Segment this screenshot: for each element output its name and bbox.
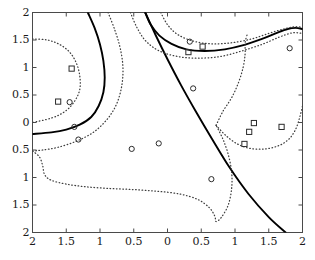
x-tick-label: 0: [164, 235, 171, 248]
y-tick-label: 0.5: [12, 88, 30, 101]
x-tick-label: 1: [232, 235, 239, 248]
curve-solid-boundary-right: [145, 13, 302, 52]
curve-dotted-lower-left-loop: [33, 125, 233, 221]
markers-group: [56, 39, 293, 182]
curves-group: [33, 13, 303, 233]
chart-figure: 21.510.500.511.5221.510.500.511.52: [0, 0, 315, 260]
y-tick-label: 2: [23, 226, 30, 239]
x-tick-label: 1: [97, 235, 104, 248]
curve-dotted-inner-left: [33, 39, 81, 123]
y-tick-label: 1.5: [12, 33, 30, 46]
y-tick-label: 1: [23, 61, 30, 74]
data-point-square: [200, 44, 205, 49]
curve-solid-boundary-left: [33, 13, 105, 135]
x-tick-label: 1.5: [260, 235, 278, 248]
x-tick-label: 2: [29, 235, 36, 248]
curve-dotted-right-cluster-loop: [216, 106, 302, 149]
data-point-circle: [209, 177, 214, 182]
data-point-circle: [67, 100, 72, 105]
scatter-contour-plot: 21.510.500.511.5221.510.500.511.52: [0, 0, 315, 260]
y-tick-label: 1.5: [12, 198, 30, 211]
x-tick-label: 0.5: [193, 235, 211, 248]
x-tick-label: 0.5: [125, 235, 143, 248]
data-point-square: [69, 66, 74, 71]
data-point-circle: [129, 146, 134, 151]
y-tick-label: 0: [23, 116, 30, 129]
data-point-square: [242, 141, 247, 146]
data-point-circle: [191, 86, 196, 91]
curve-dotted-outer-left: [33, 13, 124, 152]
data-point-circle: [156, 141, 161, 146]
y-tick-label: 2: [23, 6, 30, 19]
data-point-square: [279, 124, 284, 129]
x-tick-label: 1.5: [58, 235, 76, 248]
curve-dotted-inner-right: [161, 13, 303, 44]
y-tick-label: 0.5: [12, 143, 30, 156]
y-tick-label: 1: [23, 171, 30, 184]
x-tick-label: 2: [299, 235, 306, 248]
data-point-circle: [287, 46, 292, 51]
curve-solid-boundary-diagonal: [145, 13, 285, 233]
data-point-square: [251, 120, 256, 125]
data-point-square: [56, 99, 61, 104]
plot-frame: [33, 13, 303, 233]
data-point-square: [247, 129, 252, 134]
